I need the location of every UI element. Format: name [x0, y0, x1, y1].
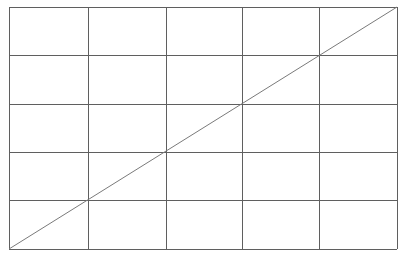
grid-diagram: [0, 0, 403, 259]
diagonal-line: [9, 7, 397, 249]
